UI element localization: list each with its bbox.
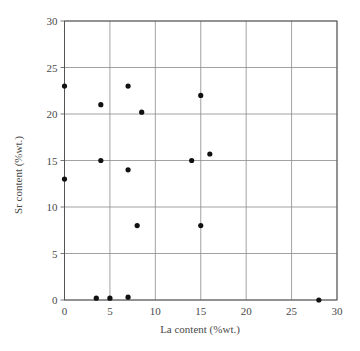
x-tick-label: 20	[241, 305, 253, 317]
y-tick-label: 30	[47, 15, 59, 27]
data-point	[94, 296, 99, 301]
data-point	[107, 296, 112, 301]
x-axis-ticks: 051015202530	[62, 305, 343, 317]
data-point	[98, 102, 103, 107]
y-tick-label: 0	[52, 294, 58, 306]
data-point	[189, 158, 194, 163]
y-tick-label: 25	[47, 62, 59, 74]
y-axis-ticks: 051015202530	[47, 15, 65, 306]
data-point	[62, 84, 67, 89]
x-tick-label: 30	[332, 305, 344, 317]
grid-lines	[65, 21, 338, 300]
data-point	[135, 223, 140, 228]
x-tick-label: 15	[195, 305, 207, 317]
x-tick-label: 0	[62, 305, 68, 317]
data-point	[98, 158, 103, 163]
y-tick-label: 15	[47, 155, 59, 167]
data-point	[207, 151, 212, 156]
data-points	[62, 84, 322, 303]
data-point	[139, 110, 144, 115]
y-tick-label: 5	[52, 248, 58, 260]
data-point	[125, 167, 130, 172]
x-tick-label: 25	[286, 305, 298, 317]
x-tick-label: 5	[107, 305, 113, 317]
scatter-chart: 051015202530 051015202530 La content (%w…	[0, 0, 360, 351]
data-point	[62, 177, 67, 182]
data-point	[125, 84, 130, 89]
y-tick-label: 10	[47, 201, 59, 213]
x-axis-label: La content (%wt.)	[160, 323, 240, 336]
x-tick-label: 10	[150, 305, 162, 317]
y-tick-label: 20	[47, 108, 59, 120]
data-point	[125, 295, 130, 300]
y-axis-label: Sr content (%wt.)	[12, 136, 25, 214]
data-point	[316, 297, 321, 302]
data-point	[198, 93, 203, 98]
data-point	[198, 223, 203, 228]
